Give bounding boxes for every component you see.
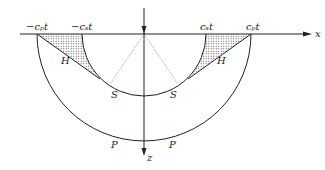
ray-left bbox=[110, 34, 144, 84]
label-neg-cp-t: −cₚt bbox=[26, 21, 49, 32]
source-arrow-icon bbox=[142, 26, 147, 34]
label-x: x bbox=[315, 28, 321, 39]
x-axis-arrow-icon bbox=[303, 32, 312, 37]
diagram-canvas: −cₚt −cₛt cₛt cₚt x z H H S S P P bbox=[0, 0, 325, 170]
label-s-left: S bbox=[111, 89, 118, 100]
label-s-right: S bbox=[170, 89, 177, 100]
label-z: z bbox=[146, 152, 153, 163]
z-axis-arrow-icon bbox=[142, 148, 147, 156]
label-p-right: P bbox=[168, 139, 176, 150]
label-h-left: H bbox=[60, 55, 70, 66]
label-cs-t: cₛt bbox=[200, 21, 214, 32]
label-neg-cs-t: −cₛt bbox=[71, 21, 93, 32]
wavefront-diagram: −cₚt −cₛt cₛt cₚt x z H H S S P P bbox=[0, 0, 325, 170]
label-cp-t: cₚt bbox=[246, 21, 261, 32]
label-p-left: P bbox=[110, 139, 118, 150]
label-h-right: H bbox=[216, 55, 226, 66]
ray-right bbox=[144, 34, 178, 84]
